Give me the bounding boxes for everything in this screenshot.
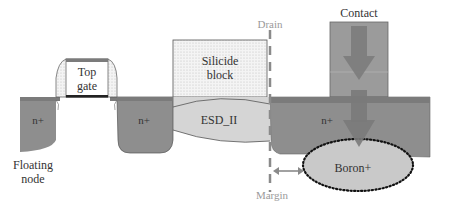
n-plus-label-middle: n+ <box>138 114 150 126</box>
floating-node-label-line2: node <box>21 172 44 186</box>
margin-label: Margin <box>256 189 289 201</box>
margin-arrow <box>273 167 304 175</box>
floating-node-label-line1: Floating <box>13 158 53 172</box>
top-gate-label-line2: gate <box>77 79 97 93</box>
silicide-label-line1: Silicide <box>202 54 239 68</box>
diagram-canvas: Top gate Silicide block ESD_II Drain Con… <box>0 0 449 211</box>
esd-label: ESD_II <box>201 113 238 127</box>
n-plus-label-right: n+ <box>321 114 333 126</box>
boron-label: Boron+ <box>335 161 372 175</box>
contact-label: Contact <box>340 6 378 20</box>
n-plus-label-left: n+ <box>32 114 44 126</box>
silicide-label-line2: block <box>207 68 234 82</box>
top-gate-label-line1: Top <box>78 65 97 79</box>
drain-label: Drain <box>257 18 283 30</box>
